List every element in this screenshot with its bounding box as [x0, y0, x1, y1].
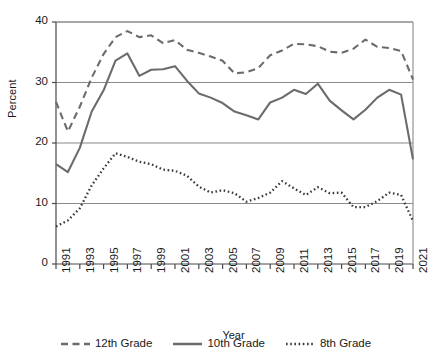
legend-item-8th-grade[interactable]: 8th Grade [285, 337, 371, 349]
series-line-12th-grade [56, 31, 413, 131]
legend-swatch-dashed [60, 339, 90, 348]
legend-label: 10th Grade [207, 337, 265, 349]
legend-label: 12th Grade [95, 337, 153, 349]
series-line-8th-grade [56, 153, 413, 226]
line-chart: Percent 010203040 1991199319951997199920… [0, 0, 431, 364]
chart-legend: 12th Grade10th Grade8th Grade [0, 337, 431, 349]
legend-item-10th-grade[interactable]: 10th Grade [172, 337, 265, 349]
plot-area [0, 0, 431, 364]
legend-swatch-solid [172, 339, 202, 348]
series-line-10th-grade [56, 53, 413, 172]
legend-item-12th-grade[interactable]: 12th Grade [60, 337, 153, 349]
legend-label: 8th Grade [320, 337, 371, 349]
legend-swatch-dotted [285, 339, 315, 348]
